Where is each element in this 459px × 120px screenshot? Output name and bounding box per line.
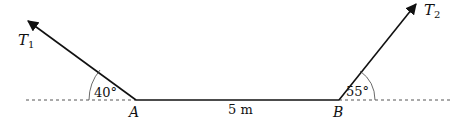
t1-label: T1 xyxy=(18,31,34,50)
angle-b-label: 55° xyxy=(346,84,369,99)
point-b-label: B xyxy=(332,104,343,120)
angle-a-label: 40° xyxy=(94,85,117,100)
t1-force-arrow xyxy=(28,21,136,100)
distance-label: 5 m xyxy=(228,102,253,117)
point-a-label: A xyxy=(127,104,139,120)
t2-label: T2 xyxy=(424,1,440,20)
force-diagram: T1 T2 40° 55° A B 5 m xyxy=(0,0,459,120)
